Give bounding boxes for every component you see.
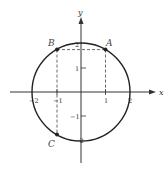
x-tick-label: 1 (104, 97, 108, 105)
y-axis-label: y (77, 8, 83, 17)
point-C-label: C (48, 139, 55, 149)
y-tick-label: −2 (74, 137, 84, 145)
x-axis-arrow-icon (149, 90, 156, 95)
y-tick-label: −1 (70, 113, 80, 121)
x-tick-label: 2 (128, 97, 132, 105)
circle-diagram: x y −2 −1 1 2 2 1 −1 −2 A B C (0, 0, 168, 171)
y-tick-label: 2 (75, 41, 79, 49)
point-B-label: B (47, 38, 55, 48)
point-B (55, 48, 59, 52)
x-axis-label: x (159, 88, 164, 97)
x-tick-label: −2 (29, 97, 39, 105)
point-A-label: A (105, 38, 113, 48)
x-tick-label: −1 (53, 97, 63, 105)
y-axis-arrow-icon (79, 17, 84, 24)
point-C (55, 132, 59, 136)
y-tick-label: 1 (75, 65, 79, 73)
point-A (104, 48, 108, 52)
